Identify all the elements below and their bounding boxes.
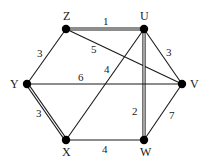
edge-weight-z-y: 3	[37, 47, 43, 59]
edge-weight-y-v: 6	[78, 71, 84, 83]
edge-weight-x-w: 4	[102, 143, 108, 155]
edge-weight-w-v: 7	[169, 109, 175, 121]
node-label-w: W	[140, 145, 152, 159]
edge-weight-y-x: 3	[36, 107, 42, 119]
edge-weight-u-v: 3	[166, 46, 172, 58]
edge-y-x	[27, 84, 66, 140]
edge-z-y	[27, 29, 66, 84]
edge-weight-u-x: 4	[104, 63, 110, 75]
node-y	[23, 80, 31, 88]
weighted-graph-diagram: 1353426347 ZUVWXY	[0, 0, 211, 166]
edges-layer	[27, 29, 182, 140]
node-u	[140, 25, 148, 33]
node-label-x: X	[62, 145, 71, 159]
node-label-v: V	[190, 77, 199, 91]
node-label-y: Y	[10, 77, 19, 91]
node-x	[62, 136, 70, 144]
edge-u-v	[144, 29, 182, 84]
edge-weight-z-v: 5	[91, 43, 97, 55]
edge-weight-z-u: 1	[103, 15, 109, 27]
edge-weight-u-w: 2	[132, 105, 138, 117]
node-z	[62, 25, 70, 33]
node-label-u: U	[140, 9, 149, 23]
node-label-z: Z	[63, 9, 70, 23]
node-w	[140, 136, 148, 144]
edge-weights-layer: 1353426347	[36, 15, 175, 155]
node-v	[178, 80, 186, 88]
edge-w-v	[144, 84, 182, 140]
